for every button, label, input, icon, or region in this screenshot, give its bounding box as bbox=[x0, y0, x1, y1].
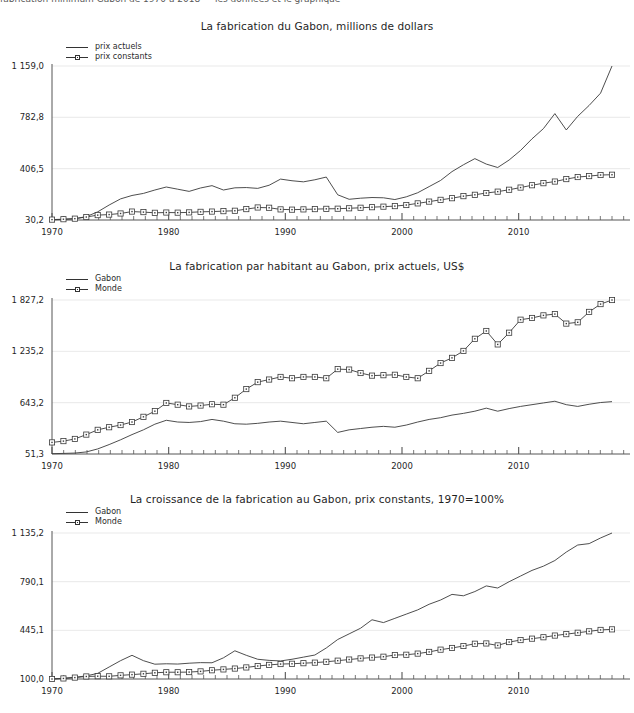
series-marker-dot bbox=[154, 672, 155, 673]
series-marker-dot bbox=[166, 212, 167, 213]
series-marker-dot bbox=[394, 654, 395, 655]
y-axis-tick-label: 1 235,2 bbox=[12, 346, 44, 356]
x-axis-tick-label: 1980 bbox=[158, 686, 180, 696]
series-marker-dot bbox=[223, 210, 224, 211]
chart-3-legend: Gabon Monde bbox=[64, 507, 122, 527]
series-marker-dot bbox=[474, 338, 475, 339]
series-marker-dot bbox=[108, 214, 109, 215]
series-marker-dot bbox=[566, 178, 567, 179]
series-marker-dot bbox=[428, 651, 429, 652]
chart-2-plot: 51,3643,21 235,21 827,219701980199020002… bbox=[0, 292, 634, 488]
series-marker-dot bbox=[406, 376, 407, 377]
series-marker-dot bbox=[291, 378, 292, 379]
series-marker-dot bbox=[326, 378, 327, 379]
y-axis-tick-label: 1 159,0 bbox=[12, 61, 44, 71]
chart-3-svg: 100,0445,1790,11 135,2197019801990200020… bbox=[0, 525, 634, 713]
series-marker-dot bbox=[326, 661, 327, 662]
series-marker-dot bbox=[440, 199, 441, 200]
series-marker-dot bbox=[268, 379, 269, 380]
series-marker-dot bbox=[554, 635, 555, 636]
series-marker-dot bbox=[463, 645, 464, 646]
y-axis-tick-label: 100,0 bbox=[20, 674, 44, 684]
series-marker-dot bbox=[371, 375, 372, 376]
series-marker-dot bbox=[211, 670, 212, 671]
chart-manufacturing-per-capita: La fabrication par habitant au Gabon, pr… bbox=[0, 258, 634, 490]
legend-label: Gabon bbox=[94, 507, 121, 517]
series-marker-dot bbox=[177, 212, 178, 213]
series-marker-dot bbox=[474, 194, 475, 195]
series-marker-dot bbox=[406, 204, 407, 205]
series-marker-dot bbox=[268, 207, 269, 208]
series-marker-dot bbox=[131, 674, 132, 675]
line-swatch-icon bbox=[64, 507, 90, 517]
series-marker-dot bbox=[108, 676, 109, 677]
series-marker-dot bbox=[177, 404, 178, 405]
series-marker-dot bbox=[51, 442, 52, 443]
series-marker-dot bbox=[143, 416, 144, 417]
x-axis-tick-label: 1970 bbox=[41, 227, 63, 237]
series-marker-dot bbox=[86, 434, 87, 435]
x-axis-tick-label: 1990 bbox=[275, 686, 297, 696]
series-marker-dot bbox=[108, 427, 109, 428]
series-line-2 bbox=[52, 175, 612, 220]
series-marker-dot bbox=[486, 192, 487, 193]
series-marker-dot bbox=[246, 208, 247, 209]
chart-3-title: La croissance de la fabrication au Gabon… bbox=[0, 493, 634, 505]
series-marker-dot bbox=[120, 675, 121, 676]
series-marker-dot bbox=[154, 212, 155, 213]
series-marker-dot bbox=[577, 176, 578, 177]
series-marker-dot bbox=[531, 317, 532, 318]
series-marker-dot bbox=[394, 374, 395, 375]
series-marker-dot bbox=[97, 214, 98, 215]
series-marker-dot bbox=[303, 209, 304, 210]
clipped-header-text: fabrication minimum Gabon de 1970 a 2018… bbox=[0, 0, 634, 4]
series-marker-dot bbox=[188, 212, 189, 213]
y-axis-tick-label: 1 135,2 bbox=[12, 528, 44, 538]
y-axis-tick-label: 445,1 bbox=[20, 625, 44, 635]
series-marker-dot bbox=[360, 372, 361, 373]
chart-2-title: La fabrication par habitant au Gabon, pr… bbox=[0, 260, 634, 272]
series-marker-dot bbox=[406, 654, 407, 655]
series-marker-dot bbox=[303, 376, 304, 377]
series-marker-dot bbox=[611, 174, 612, 175]
series-marker-dot bbox=[120, 424, 121, 425]
y-axis-tick-label: 782,8 bbox=[20, 112, 44, 122]
series-marker-dot bbox=[588, 631, 589, 632]
series-marker-dot bbox=[268, 664, 269, 665]
series-marker-dot bbox=[577, 632, 578, 633]
series-marker-dot bbox=[508, 332, 509, 333]
series-marker-dot bbox=[63, 219, 64, 220]
series-marker-dot bbox=[394, 205, 395, 206]
series-marker-dot bbox=[257, 665, 258, 666]
series-marker-dot bbox=[520, 639, 521, 640]
series-marker-dot bbox=[166, 402, 167, 403]
series-marker-dot bbox=[417, 653, 418, 654]
series-marker-dot bbox=[440, 649, 441, 650]
series-marker-dot bbox=[360, 658, 361, 659]
legend-item: prix actuels bbox=[64, 42, 152, 52]
line-swatch-icon bbox=[64, 42, 90, 52]
series-marker-dot bbox=[223, 669, 224, 670]
series-marker-dot bbox=[234, 397, 235, 398]
series-marker-dot bbox=[600, 303, 601, 304]
series-marker-dot bbox=[314, 662, 315, 663]
series-marker-dot bbox=[257, 207, 258, 208]
series-marker-dot bbox=[177, 672, 178, 673]
line-swatch-icon bbox=[64, 274, 90, 284]
x-axis-tick-label: 2010 bbox=[508, 461, 530, 471]
legend-item: Gabon bbox=[64, 274, 122, 284]
series-marker-dot bbox=[337, 368, 338, 369]
x-axis-tick-label: 1990 bbox=[275, 461, 297, 471]
series-marker-dot bbox=[291, 663, 292, 664]
series-marker-dot bbox=[51, 678, 52, 679]
x-axis-tick-label: 1970 bbox=[41, 686, 63, 696]
series-marker-dot bbox=[497, 344, 498, 345]
series-marker-dot bbox=[588, 311, 589, 312]
series-marker-dot bbox=[600, 174, 601, 175]
series-marker-dot bbox=[337, 208, 338, 209]
x-axis-tick-label: 1970 bbox=[41, 461, 63, 471]
series-marker-dot bbox=[417, 378, 418, 379]
chart-1-svg: 30,2406,5782,81 159,01970198019902000201… bbox=[0, 58, 634, 254]
series-marker-dot bbox=[246, 667, 247, 668]
x-axis-tick-label: 2000 bbox=[391, 461, 413, 471]
